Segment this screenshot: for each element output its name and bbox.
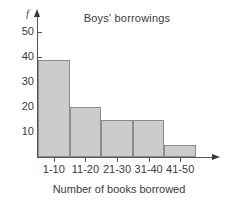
x-tick xyxy=(54,158,55,162)
histogram-bar xyxy=(70,107,102,157)
x-axis-line xyxy=(37,157,213,158)
y-axis-arrow-icon xyxy=(34,9,40,17)
x-tick xyxy=(180,158,181,162)
histogram-figure: Boys' borrowings f 1020304050 1-1011-202… xyxy=(0,0,246,204)
histogram-bar xyxy=(101,120,133,158)
y-tick-label: 50 xyxy=(0,25,34,37)
x-tick-label: 41-50 xyxy=(160,163,200,175)
y-tick-label: 30 xyxy=(0,75,34,87)
x-tick xyxy=(117,158,118,162)
y-tick-label: 40 xyxy=(0,50,34,62)
y-axis-label: f xyxy=(26,7,29,19)
x-axis-arrow-icon xyxy=(212,154,220,160)
plot-area xyxy=(38,20,196,157)
histogram-bar xyxy=(164,145,196,158)
x-axis-caption: Number of books borrowed xyxy=(0,183,238,195)
y-tick-label: 20 xyxy=(0,100,34,112)
histogram-bar xyxy=(38,60,70,158)
y-tick-label: 10 xyxy=(0,125,34,137)
x-tick xyxy=(149,158,150,162)
x-tick xyxy=(85,158,86,162)
histogram-bar xyxy=(133,120,165,158)
